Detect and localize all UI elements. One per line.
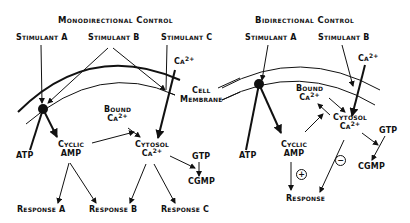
left-response-a: Response A bbox=[17, 205, 66, 214]
right-title: Bidirectional Control bbox=[255, 16, 354, 25]
left-cyclic-amp: CyclicAMP bbox=[58, 140, 84, 158]
right-atp: ATP bbox=[239, 151, 257, 160]
stimulatory-plus-sign: + bbox=[296, 169, 307, 180]
right-cgmp: CGMP bbox=[358, 162, 385, 171]
left-response-c: Response C bbox=[161, 205, 209, 214]
right-stimulant-b: Stimulant B bbox=[318, 33, 370, 42]
left-ca-influx: Ca2+ bbox=[174, 57, 195, 66]
right-stimulant-a: Stimulant A bbox=[245, 33, 297, 42]
left-cgmp: CGMP bbox=[188, 177, 215, 186]
left-cytosol-ca: CytosolCa2+ bbox=[135, 140, 169, 158]
left-stimulant-b: Stimulant B bbox=[88, 33, 140, 42]
left-response-b: Response B bbox=[89, 205, 137, 214]
right-cyclic-amp: CyclicAMP bbox=[281, 140, 307, 158]
left-gtp: GTP bbox=[192, 152, 210, 161]
right-gtp: GTP bbox=[379, 126, 397, 135]
inhibitory-minus-sign: − bbox=[335, 155, 346, 166]
right-cytosol-ca: CytosolCa2+ bbox=[333, 113, 367, 131]
signaling-diagram: Monodirectional Control Stimulant A Stim… bbox=[0, 0, 410, 223]
left-stimulant-a: Stimulant A bbox=[16, 33, 68, 42]
right-ca-influx: Ca2+ bbox=[358, 54, 379, 63]
left-title: Monodirectional Control bbox=[58, 16, 173, 25]
left-stimulant-c: Stimulant C bbox=[161, 33, 212, 42]
right-bound-ca: BoundCa2+ bbox=[296, 84, 323, 102]
left-atp: ATP bbox=[16, 151, 34, 160]
cell-membrane-label: CellMembrane bbox=[180, 86, 223, 104]
right-response: Response bbox=[286, 194, 325, 203]
left-bound-ca: BoundCa2+ bbox=[104, 105, 131, 123]
